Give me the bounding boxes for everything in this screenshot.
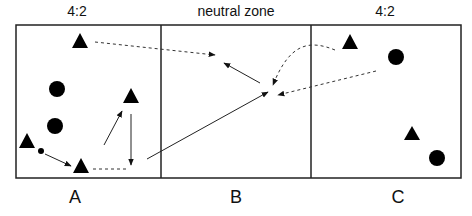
top-label-left: 4:2 xyxy=(67,4,86,18)
zone-label-b: B xyxy=(230,188,242,206)
zone-label-c: C xyxy=(392,188,405,206)
dashed-arrow-c-circle-to-b xyxy=(278,71,376,95)
triangle-marker-a-top xyxy=(72,33,88,48)
zone-label-a: A xyxy=(69,188,81,206)
dashed-curve-c-to-b xyxy=(273,45,335,85)
circle-marker-c-2 xyxy=(429,150,445,166)
dashed-arrow-a-top-to-b xyxy=(95,42,215,55)
circle-marker-a-1 xyxy=(49,81,65,97)
triangle-marker-c-bottom xyxy=(404,126,420,140)
triangle-marker-a-right xyxy=(123,88,139,103)
solid-arrow-b-upleft xyxy=(224,63,260,83)
circle-marker-c-1 xyxy=(388,49,404,65)
solid-arrow-a-to-b-long xyxy=(147,92,268,159)
puck-dot xyxy=(38,148,44,154)
zone-diagram xyxy=(0,0,472,216)
triangle-marker-c-top xyxy=(342,34,358,49)
triangle-marker-a-bottom xyxy=(73,158,89,173)
solid-arrow-a-up xyxy=(104,111,122,145)
circle-marker-a-2 xyxy=(47,118,63,134)
solid-arrow-puck-to-triangle xyxy=(45,154,71,166)
top-label-right: 4:2 xyxy=(375,4,394,18)
top-label-neutral-zone: neutral zone xyxy=(197,4,274,18)
triangle-marker-a-left xyxy=(19,133,35,148)
